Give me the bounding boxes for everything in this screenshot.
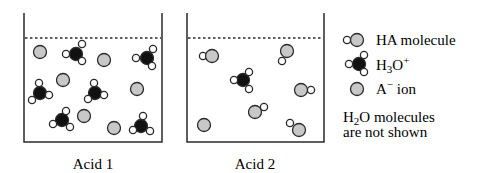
ha-molecule [295, 84, 315, 97]
hydrogen-atom [278, 57, 285, 64]
a-atom [293, 124, 306, 137]
a-minus-ion [108, 122, 121, 135]
hydrogen-atom [84, 95, 91, 102]
hydrogen-atom [139, 112, 146, 119]
hydrogen-atom [230, 76, 237, 83]
beaker-label: Acid 2 [235, 156, 275, 172]
hydrogen-atom [146, 127, 153, 134]
legend-ha-icon [343, 34, 363, 47]
legend-h3o-icon [345, 51, 367, 75]
beaker-label: Acid 1 [73, 156, 113, 172]
hydrogen-atom [62, 50, 69, 57]
hydrogen-atom [132, 54, 139, 61]
ha-molecule [278, 45, 293, 65]
hydrogen-atom [245, 68, 252, 75]
hydrogen-atom [62, 107, 69, 114]
h3o-ion [62, 40, 85, 64]
hydrogen-atom [35, 79, 42, 86]
hydrogen-atom [307, 86, 314, 93]
legend-note-line2: are not shown [343, 124, 428, 140]
a-atom [281, 45, 294, 58]
hydrogen-atom [100, 91, 107, 98]
beaker-acid-1: Acid 1 [24, 13, 162, 172]
h3o-ion [49, 107, 73, 130]
hydrogen-atom [245, 85, 252, 92]
a-minus-ion [98, 54, 111, 67]
h3o-ion [129, 112, 153, 134]
hydrogen-atom [28, 96, 35, 103]
legend-a-minus-icon [351, 83, 364, 96]
legend-a-minus-label: A− ion [376, 78, 416, 97]
ha-molecule [286, 119, 305, 136]
hydrogen-atom [343, 36, 350, 43]
hydrogen-atom [45, 91, 52, 98]
ha-molecule [249, 103, 268, 118]
hydrogen-atom [78, 40, 85, 47]
a-minus-ion [34, 46, 47, 59]
ha-molecule [199, 50, 218, 63]
a-minus-ion [351, 83, 364, 96]
legend-ha-label: HA molecule [376, 32, 456, 48]
h3o-ion [230, 68, 252, 92]
a-atom [351, 34, 364, 47]
acid-comparison-diagram: Acid 1Acid 2 HA molecule H3O+ A− ion H2O… [0, 0, 478, 173]
h3o-ion [132, 45, 156, 69]
beaker-acid-2: Acid 2 [187, 13, 324, 172]
hydrogen-atom [66, 123, 73, 130]
hydrogen-atom [149, 45, 156, 52]
a-atom [249, 106, 262, 119]
h3o-ion [345, 51, 367, 75]
hydrogen-atom [78, 57, 85, 64]
h3o-ion [28, 79, 52, 103]
a-minus-ion [57, 74, 70, 87]
a-minus-ion [131, 83, 144, 96]
legend-h3o-label: H3O+ [376, 54, 409, 75]
hydrogen-atom [286, 119, 293, 126]
a-minus-ion [198, 119, 211, 132]
h3o-ion [84, 79, 107, 102]
legend: HA molecule H3O+ A− ion H2O molecules ar… [343, 32, 456, 140]
ha-molecule [343, 34, 363, 47]
a-atom [206, 50, 219, 63]
hydrogen-atom [148, 62, 155, 69]
hydrogen-atom [49, 120, 56, 127]
a-minus-ion [78, 110, 91, 123]
a-atom [295, 84, 308, 97]
hydrogen-atom [360, 51, 367, 58]
hydrogen-atom [345, 60, 352, 67]
hydrogen-atom [360, 68, 367, 75]
hydrogen-atom [129, 126, 136, 133]
hydrogen-atom [90, 79, 97, 86]
